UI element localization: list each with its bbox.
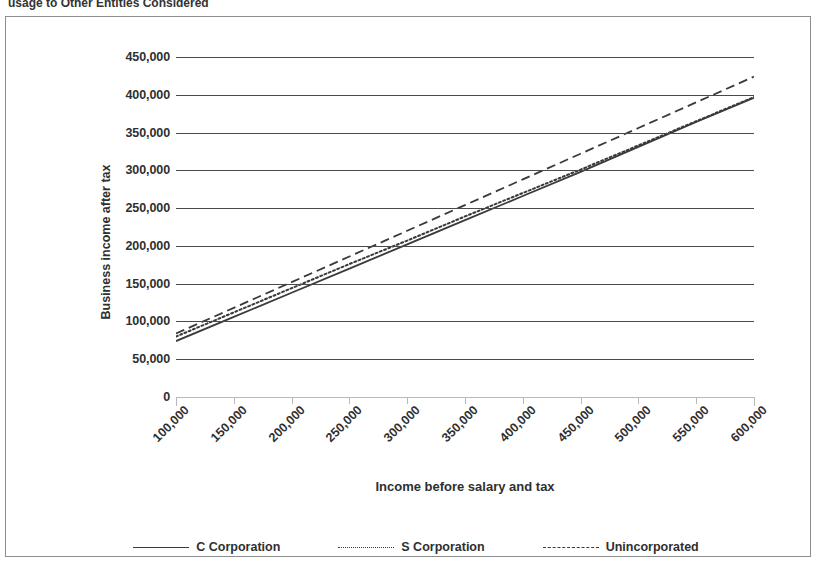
x-axis-tick-label: 400,000 bbox=[497, 403, 539, 445]
x-axis-tick-label: 450,000 bbox=[555, 403, 597, 445]
y-axis-tick-label: 250,000 bbox=[126, 201, 171, 215]
y-axis-tick-label: 200,000 bbox=[126, 239, 171, 253]
x-axis-title: Income before salary and tax bbox=[176, 479, 754, 494]
gridline bbox=[176, 95, 754, 96]
legend-item[interactable]: S Corporation bbox=[338, 540, 484, 554]
legend-label: Unincorporated bbox=[606, 540, 699, 554]
y-axis-tick-label: 50,000 bbox=[132, 352, 170, 366]
legend-label: C Corporation bbox=[196, 540, 280, 554]
gridline bbox=[176, 246, 754, 247]
x-axis-tick-label: 550,000 bbox=[670, 403, 712, 445]
x-axis-tick-label: 250,000 bbox=[323, 403, 365, 445]
y-axis-tick-label: 350,000 bbox=[126, 126, 171, 140]
gridline bbox=[176, 133, 754, 134]
gridline bbox=[176, 170, 754, 171]
y-axis-tick-label: 0 bbox=[163, 390, 170, 404]
series-layer bbox=[176, 57, 754, 397]
legend-swatch-icon bbox=[338, 547, 394, 548]
gridline bbox=[176, 359, 754, 360]
x-axis-tick bbox=[754, 397, 755, 406]
legend-item[interactable]: C Corporation bbox=[133, 540, 280, 554]
y-axis-tick-label: 400,000 bbox=[126, 88, 171, 102]
chart-frame: Business income after tax 050,000100,000… bbox=[5, 16, 811, 557]
gridline bbox=[176, 284, 754, 285]
gridline bbox=[176, 321, 754, 322]
plot-area bbox=[176, 57, 754, 397]
legend-swatch-icon bbox=[133, 547, 189, 548]
x-axis-tick-label: 300,000 bbox=[381, 403, 423, 445]
y-axis-tick-label: 100,000 bbox=[126, 314, 171, 328]
chart-legend: C CorporationS CorporationUnincorporated bbox=[66, 535, 766, 559]
x-axis-tick-label: 350,000 bbox=[439, 403, 481, 445]
y-axis-tick-label: 450,000 bbox=[126, 50, 171, 64]
x-axis-tick-label: 200,000 bbox=[266, 403, 308, 445]
x-axis-tick-label: 150,000 bbox=[208, 403, 250, 445]
legend-label: S Corporation bbox=[401, 540, 484, 554]
x-axis-tick-labels: 100,000150,000200,000250,000300,000350,0… bbox=[176, 403, 754, 473]
page-caption: usage to Other Entitles Considered bbox=[8, 0, 508, 10]
series-line bbox=[176, 77, 754, 334]
legend-item[interactable]: Unincorporated bbox=[543, 540, 699, 554]
x-axis-tick-label: 600,000 bbox=[728, 403, 770, 445]
y-axis-tick-label: 150,000 bbox=[126, 277, 171, 291]
x-axis-tick-label: 500,000 bbox=[612, 403, 654, 445]
y-axis-tick-label: 300,000 bbox=[126, 163, 171, 177]
gridline bbox=[176, 208, 754, 209]
x-axis-tick-label: 100,000 bbox=[150, 403, 192, 445]
y-axis-tick-labels: 050,000100,000150,000200,000250,000300,0… bbox=[84, 57, 170, 397]
legend-swatch-icon bbox=[543, 547, 599, 548]
gridline bbox=[176, 57, 754, 58]
